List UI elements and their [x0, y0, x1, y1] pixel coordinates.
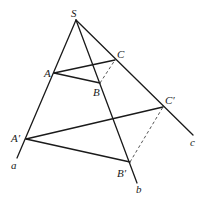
ray-c [76, 20, 193, 135]
label-A: A [43, 67, 51, 79]
label-b: b [136, 183, 142, 195]
edge-A2B2 [26, 139, 130, 162]
edge-B2C2-dashed [130, 107, 163, 162]
label-B-prime: B′ [117, 167, 127, 179]
label-B: B [93, 86, 100, 98]
label-a: a [11, 159, 17, 171]
label-S: S [71, 7, 77, 19]
ray-a [17, 20, 76, 158]
edge-BC-dashed [100, 60, 115, 83]
label-C-prime: C′ [165, 94, 175, 106]
label-A-prime: A′ [10, 132, 21, 144]
perspective-diagram: S A B C A′ B′ C′ a b c [0, 0, 207, 203]
label-C: C [117, 48, 125, 60]
edge-AB [54, 73, 100, 83]
edge-A2C2 [26, 107, 163, 139]
edge-AC [54, 60, 115, 73]
label-c: c [190, 136, 195, 148]
ray-b [76, 20, 137, 183]
